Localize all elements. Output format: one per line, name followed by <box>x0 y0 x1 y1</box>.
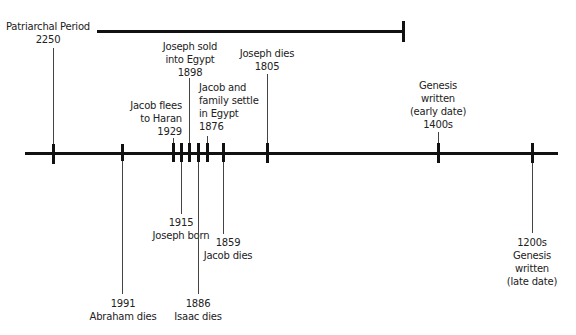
event-year: 1898 <box>163 66 218 79</box>
event-label-joseph-dies: Joseph dies 1805 <box>240 47 295 73</box>
event-label-jacob-settles: Jacob and family settle in Egypt 1876 <box>199 81 259 133</box>
event-text: Joseph dies <box>240 47 295 60</box>
event-label-abraham-dies: 1991 Abraham dies <box>90 297 157 323</box>
event-text-line: Genesis <box>410 79 466 92</box>
period-year: 2250 <box>6 33 90 46</box>
event-text-line: written <box>507 262 557 275</box>
event-text-line: to Haran <box>130 112 182 125</box>
leader-line <box>223 162 224 234</box>
tick-2250 <box>52 144 55 164</box>
tick-1200s <box>531 143 534 163</box>
leader-line <box>198 162 199 294</box>
event-year: 1400s <box>410 118 466 131</box>
event-text-line: Jacob flees <box>130 99 182 112</box>
leader-line <box>181 162 182 214</box>
event-text-line: (early date) <box>410 105 466 118</box>
timeline-axis <box>25 152 558 155</box>
tick-1859 <box>222 143 225 162</box>
tick-1805 <box>266 143 269 163</box>
event-year: 1859 <box>204 236 253 249</box>
tick-1991 <box>121 144 124 161</box>
event-year: 1991 <box>90 297 157 310</box>
event-label-jacob-flees: Jacob flees to Haran 1929 <box>130 99 182 138</box>
leader-line <box>532 163 533 233</box>
tick-1886 <box>197 143 200 162</box>
tick-1400s <box>437 143 440 163</box>
event-year: 1805 <box>240 60 295 73</box>
event-text-line: family settle <box>199 94 259 107</box>
event-label-joseph-sold: Joseph sold into Egypt 1898 <box>163 40 218 79</box>
leader-line <box>189 78 190 144</box>
event-label-patriarchal-start: Patriarchal Period 2250 <box>6 20 90 46</box>
event-label-genesis-late: 1200s Genesis written (late date) <box>507 236 557 288</box>
tick-1929 <box>172 143 175 162</box>
leader-line <box>267 74 268 144</box>
patriarchal-period-bar <box>97 30 405 33</box>
tick-1876 <box>206 143 209 162</box>
event-text: Jacob dies <box>204 249 253 262</box>
event-year: 1886 <box>174 297 222 310</box>
event-text: Joseph born <box>153 229 210 242</box>
tick-1898 <box>188 143 191 162</box>
event-text-line: Genesis <box>507 249 557 262</box>
event-label-genesis-early: Genesis written (early date) 1400s <box>410 79 466 131</box>
event-label-joseph-born: 1915 Joseph born <box>153 216 210 242</box>
event-text-line: Joseph sold <box>163 40 218 53</box>
patriarchal-period-end-cap <box>402 21 405 42</box>
event-label-isaac-dies: 1886 Isaac dies <box>174 297 222 323</box>
event-year: 1915 <box>153 216 210 229</box>
event-text-line: (late date) <box>507 275 557 288</box>
leader-line <box>122 161 123 294</box>
event-text-line: written <box>410 92 466 105</box>
event-text: Abraham dies <box>90 310 157 323</box>
event-year: 1929 <box>130 125 182 138</box>
period-label: Patriarchal Period <box>6 20 90 33</box>
event-year: 1876 <box>199 120 259 133</box>
event-year: 1200s <box>507 236 557 249</box>
leader-line <box>53 48 54 152</box>
event-text-line: into Egypt <box>163 53 218 66</box>
tick-1915 <box>180 143 183 162</box>
event-text: Isaac dies <box>174 310 222 323</box>
event-text-line: in Egypt <box>199 107 259 120</box>
event-text-line: Jacob and <box>199 81 259 94</box>
event-label-jacob-dies: 1859 Jacob dies <box>204 236 253 262</box>
